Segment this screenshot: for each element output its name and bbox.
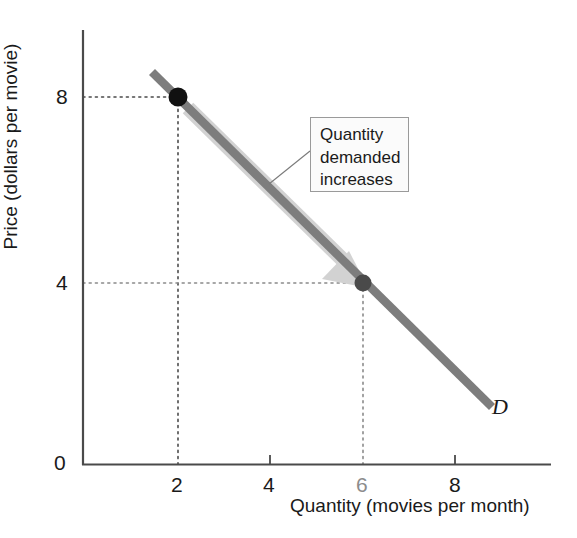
y-tick-label-4: 4: [56, 272, 68, 293]
x-tick-label-6: 6: [356, 474, 368, 495]
x-axis-title: Quantity (movies per month): [290, 496, 530, 515]
callout-line-1: Quantity: [320, 124, 401, 147]
demand-curve-figure: Price (dollars per movie) Quantity (movi…: [0, 0, 577, 538]
y-tick-label-8: 8: [56, 86, 68, 107]
x-tick-label-8: 8: [449, 474, 461, 495]
callout-line-3: increases: [320, 169, 401, 192]
origin-label: 0: [54, 452, 66, 473]
y-axis-title: Price (dollars per movie): [1, 44, 20, 250]
point-low-price: [355, 275, 372, 292]
demand-curve-label: D: [492, 396, 508, 418]
x-tick-label-4: 4: [263, 474, 275, 495]
quantity-demanded-callout: Quantity demanded increases: [310, 117, 409, 192]
x-tick-label-2: 2: [171, 474, 183, 495]
point-high-price: [169, 88, 188, 107]
chart-canvas: [0, 0, 577, 538]
callout-line-2: demanded: [320, 147, 401, 170]
callout-leader-line: [269, 151, 310, 184]
